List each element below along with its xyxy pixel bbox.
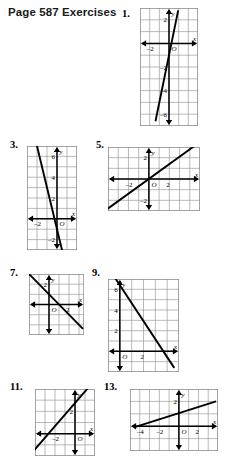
exercise-number: 7. (10, 267, 18, 278)
exercise-number: 3. (10, 139, 18, 150)
coordinate-plane-graph: xyO–22–2–4–6 (140, 8, 198, 126)
coordinate-plane-graph: xyO–2642–2 (27, 146, 77, 250)
coordinate-plane-graph: xyO2642 (108, 279, 179, 372)
y-tick-label: 4 (114, 307, 118, 315)
graph-svg: xyO2642 (108, 279, 179, 372)
origin-label: O (60, 220, 65, 228)
coordinate-plane-graph: xyO22 (29, 274, 84, 335)
graph-svg: xyO–2642–2 (27, 146, 77, 250)
graph-svg: xyO–222–2 (108, 147, 200, 211)
y-tick-label: –6 (159, 111, 168, 119)
x-tick-label: 2 (166, 181, 170, 189)
graph-svg: xyO–22 (35, 389, 95, 456)
origin-label: O (151, 181, 156, 189)
x-tick-label: –2 (146, 45, 155, 53)
coordinate-plane-graph: xyO–222–2 (108, 147, 200, 211)
coordinate-plane-graph: xyO–4–222 (130, 389, 218, 451)
exercise-number: 13. (104, 381, 117, 392)
origin-label: O (172, 45, 177, 53)
origin-label: O (122, 353, 127, 361)
y-tick-label: 2 (114, 327, 118, 335)
x-tick-label: 2 (195, 428, 199, 436)
origin-label: O (78, 435, 83, 443)
x-tick-label: –2 (155, 428, 164, 436)
graph-svg: xyO22 (29, 274, 84, 335)
y-tick-label: 2 (173, 398, 177, 406)
y-tick-label: –2 (47, 236, 56, 244)
origin-label: O (52, 306, 57, 314)
origin-label: O (181, 428, 186, 436)
x-tick-label: –2 (124, 181, 133, 189)
exercise-number: 1. (122, 8, 130, 19)
y-tick-label: 6 (114, 286, 118, 294)
exercise-number: 5. (96, 139, 104, 150)
y-tick-label: 2 (44, 281, 48, 289)
y-tick-label: –2 (139, 197, 148, 205)
coordinate-plane-graph: xyO–22 (35, 389, 95, 456)
y-tick-label: 2 (52, 195, 56, 203)
exercise-number: 9. (92, 267, 100, 278)
exercise-number: 11. (10, 381, 23, 392)
x-tick-label: 2 (141, 353, 145, 361)
x-tick-label: –2 (33, 220, 42, 228)
x-tick-label: –4 (136, 428, 145, 436)
y-tick-label: 2 (164, 16, 168, 24)
y-tick-label: 6 (52, 153, 56, 161)
y-tick-label: 4 (52, 174, 56, 182)
page-title: Page 587 Exercises (8, 6, 117, 18)
graph-svg: xyO–22–2–4–6 (140, 8, 198, 126)
graph-svg: xyO–4–222 (130, 389, 218, 451)
x-tick-label: –2 (51, 435, 60, 443)
y-tick-label: 2 (143, 154, 147, 162)
